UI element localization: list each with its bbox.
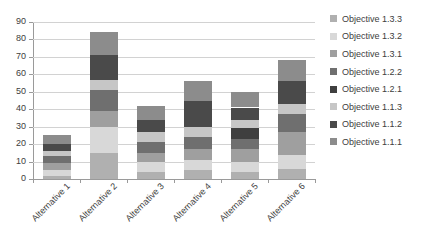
bar-segment[interactable] bbox=[231, 172, 259, 179]
bar-segment[interactable] bbox=[137, 172, 165, 179]
y-axis-label-70: 70 bbox=[0, 52, 26, 61]
y-axis-label-90: 90 bbox=[0, 17, 26, 26]
legend-label: Objective 1.2.1 bbox=[342, 84, 402, 94]
bar-segment[interactable] bbox=[231, 108, 259, 120]
bar-segment[interactable] bbox=[90, 153, 118, 179]
bar-segment[interactable] bbox=[90, 90, 118, 111]
legend-item[interactable]: Objective 1.3.2 bbox=[330, 28, 430, 46]
bars-layer bbox=[33, 22, 315, 179]
bar-group[interactable] bbox=[278, 22, 306, 179]
legend-label: Objective 1.2.2 bbox=[342, 67, 402, 77]
legend-swatch-icon bbox=[330, 15, 337, 22]
bar-segment[interactable] bbox=[90, 127, 118, 153]
plot-area bbox=[33, 22, 315, 179]
bar-segment[interactable] bbox=[184, 149, 212, 159]
bar-group[interactable] bbox=[184, 22, 212, 179]
bar-segment[interactable] bbox=[184, 170, 212, 179]
bar-segment[interactable] bbox=[184, 81, 212, 100]
bar-segment[interactable] bbox=[90, 55, 118, 79]
legend-swatch-icon bbox=[330, 103, 337, 110]
bar-segment[interactable] bbox=[231, 139, 259, 149]
bar-segment[interactable] bbox=[231, 162, 259, 172]
legend-item[interactable]: Objective 1.3.3 bbox=[330, 10, 430, 28]
legend-swatch-icon bbox=[330, 86, 337, 93]
chart-legend: Objective 1.3.3Objective 1.3.2Objective … bbox=[330, 10, 430, 151]
bar-segment[interactable] bbox=[137, 162, 165, 172]
legend-label: Objective 1.1.3 bbox=[342, 102, 402, 112]
bar-segment[interactable] bbox=[137, 120, 165, 132]
bar-segment[interactable] bbox=[43, 163, 71, 170]
y-axis-label-10: 10 bbox=[0, 157, 26, 166]
bar-group[interactable] bbox=[137, 22, 165, 179]
y-axis-label-50: 50 bbox=[0, 87, 26, 96]
legend-item[interactable]: Objective 1.2.1 bbox=[330, 80, 430, 98]
legend-item[interactable]: Objective 1.1.1 bbox=[330, 133, 430, 151]
bar-segment[interactable] bbox=[231, 92, 259, 108]
bar-segment[interactable] bbox=[278, 81, 306, 104]
bar-segment[interactable] bbox=[43, 176, 71, 179]
bar-segment[interactable] bbox=[231, 120, 259, 129]
y-axis-label-60: 60 bbox=[0, 69, 26, 78]
bar-segment[interactable] bbox=[90, 111, 118, 127]
legend-label: Objective 1.1.2 bbox=[342, 119, 402, 129]
legend-swatch-icon bbox=[330, 121, 337, 128]
x-axis-label: Alternative 2 bbox=[75, 181, 119, 225]
bar-segment[interactable] bbox=[137, 132, 165, 142]
y-axis-label-20: 20 bbox=[0, 139, 26, 148]
bar-segment[interactable] bbox=[184, 101, 212, 127]
legend-swatch-icon bbox=[330, 33, 337, 40]
stacked-bar-chart: 0102030405060708090 Alternative 1Alterna… bbox=[0, 0, 430, 243]
bar-segment[interactable] bbox=[43, 151, 71, 156]
bar-segment[interactable] bbox=[278, 132, 306, 155]
bar-segment[interactable] bbox=[90, 32, 118, 55]
bar-segment[interactable] bbox=[43, 144, 71, 151]
legend-label: Objective 1.3.1 bbox=[342, 49, 402, 59]
bar-segment[interactable] bbox=[278, 60, 306, 81]
y-axis-label-30: 30 bbox=[0, 122, 26, 131]
bar-segment[interactable] bbox=[278, 155, 306, 169]
y-axis-label-80: 80 bbox=[0, 34, 26, 43]
x-axis-label: Alternative 6 bbox=[263, 181, 307, 225]
legend-item[interactable]: Objective 1.2.2 bbox=[330, 63, 430, 81]
bar-segment[interactable] bbox=[137, 153, 165, 162]
x-axis-label: Alternative 4 bbox=[169, 181, 213, 225]
legend-swatch-icon bbox=[330, 138, 337, 145]
bar-group[interactable] bbox=[231, 22, 259, 179]
x-axis-label: Alternative 5 bbox=[216, 181, 260, 225]
legend-label: Objective 1.1.1 bbox=[342, 137, 402, 147]
legend-swatch-icon bbox=[330, 68, 337, 75]
bar-segment[interactable] bbox=[231, 149, 259, 161]
bar-group[interactable] bbox=[43, 22, 71, 179]
legend-item[interactable]: Objective 1.1.2 bbox=[330, 116, 430, 134]
bar-segment[interactable] bbox=[43, 156, 71, 163]
x-axis-label: Alternative 1 bbox=[28, 181, 72, 225]
y-axis-label-40: 40 bbox=[0, 104, 26, 113]
bar-segment[interactable] bbox=[43, 170, 71, 175]
x-axis-labels: Alternative 1Alternative 2Alternative 3A… bbox=[33, 181, 315, 243]
bar-segment[interactable] bbox=[43, 135, 71, 144]
bar-segment[interactable] bbox=[184, 127, 212, 137]
bar-segment[interactable] bbox=[278, 169, 306, 179]
bar-segment[interactable] bbox=[278, 104, 306, 114]
legend-item[interactable]: Objective 1.3.1 bbox=[330, 45, 430, 63]
bar-segment[interactable] bbox=[231, 128, 259, 138]
bar-segment[interactable] bbox=[278, 114, 306, 131]
y-axis-label-0: 0 bbox=[0, 174, 26, 183]
bar-segment[interactable] bbox=[184, 160, 212, 170]
x-axis-label: Alternative 3 bbox=[122, 181, 166, 225]
legend-label: Objective 1.3.2 bbox=[342, 31, 402, 41]
bar-segment[interactable] bbox=[90, 80, 118, 90]
bar-segment[interactable] bbox=[137, 106, 165, 120]
x-tick bbox=[315, 179, 316, 183]
legend-item[interactable]: Objective 1.1.3 bbox=[330, 98, 430, 116]
bar-group[interactable] bbox=[90, 22, 118, 179]
bar-segment[interactable] bbox=[184, 137, 212, 149]
legend-label: Objective 1.3.3 bbox=[342, 14, 402, 24]
bar-segment[interactable] bbox=[137, 142, 165, 152]
legend-swatch-icon bbox=[330, 50, 337, 57]
